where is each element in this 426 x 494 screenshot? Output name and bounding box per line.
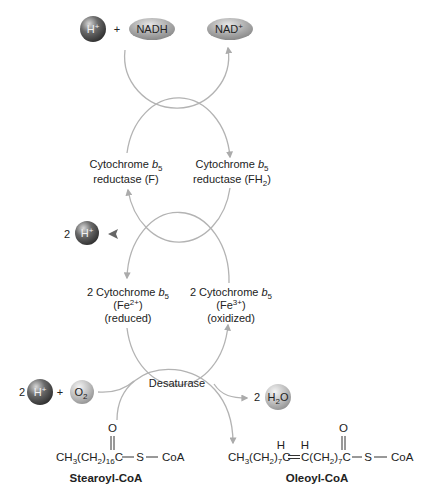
water-output-arc [214, 384, 247, 398]
carbonyl-oxygen: O [108, 422, 117, 434]
cytochrome-reduced-state: (reduced) [104, 312, 151, 324]
released-proton: H+ [75, 221, 99, 245]
reductase-oxidized-label-line2: reductase (F) [93, 173, 158, 185]
oleoyl-chain-part1: CH3(CH2)7C [228, 451, 291, 466]
desaturase-proton: H+ [27, 379, 53, 405]
cytochrome-oxidized-iron: (Fe3+) [216, 298, 245, 311]
reductase-oxidized-label-line1: Cytochrome b5 [90, 158, 163, 173]
top-proton: H+ [80, 16, 106, 42]
oleoyl-chain-part2: C(CH2)7C [301, 451, 351, 466]
stearoyl-coa-name: Stearoyl-CoA [70, 472, 143, 484]
oleoyl-coa-structure: H H O CH3(CH2)7C C(CH2)7C S CoA Oleoyl-C… [228, 422, 414, 484]
desaturation-pathway-diagram: H+ + NADH NAD+ Cytochrome b5 reductase (… [0, 0, 426, 494]
alkene-hydrogen-2: H [301, 439, 309, 451]
stearoyl-coa-structure: O CH3(CH2)16C S CoA Stearoyl-CoA [56, 422, 185, 484]
nad-molecule: NAD+ [207, 18, 253, 40]
desaturase-proton-count: 2 [19, 386, 25, 398]
carbonyl-oxygen: O [339, 422, 348, 434]
cytochrome-oxidized-state: (oxidized) [207, 312, 255, 324]
oleoyl-coa-name: Oleoyl-CoA [286, 472, 349, 484]
nadh-oxidation-arc [125, 48, 229, 108]
nadh-label: NADH [136, 23, 167, 35]
reductase-reduced-label-line2: reductase (FH2) [193, 173, 271, 188]
plus-sign: + [57, 386, 63, 398]
stearoyl-chain-formula: CH3(CH2)16C [56, 451, 123, 466]
reductase-reduced-label-line1: Cytochrome b5 [196, 158, 269, 173]
oxygen-molecule: O2 [70, 380, 94, 404]
cytochrome-reduced-label: 2 Cytochrome b5 (Fe2+) (reduced) [87, 286, 170, 324]
cytochrome-reduced-iron: (Fe2+) [113, 298, 142, 311]
water-molecule: H2O [265, 384, 291, 410]
water-count: 2 [254, 391, 260, 403]
alkene-hydrogen-1: H [277, 439, 285, 451]
sulfur-atom: S [364, 451, 372, 463]
coa-group: CoA [162, 451, 185, 463]
coa-group: CoA [391, 451, 414, 463]
nadh-molecule: NADH [129, 18, 175, 40]
cytochrome-oxidized-label: 2 Cytochrome b5 (Fe3+) (oxidized) [190, 286, 273, 324]
plus-sign: + [114, 23, 120, 35]
reductase-upper-arc [127, 98, 230, 157]
proton-release-count: 2 [64, 228, 70, 240]
sulfur-atom: S [136, 451, 144, 463]
desaturase-label: Desaturase [149, 377, 205, 389]
